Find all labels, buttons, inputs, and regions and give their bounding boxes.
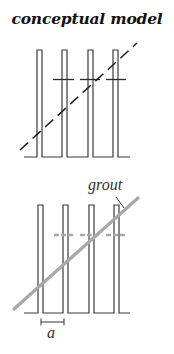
spacing-label-a: a — [47, 324, 55, 341]
top-diagram — [20, 43, 137, 157]
grout-label: grout — [88, 176, 123, 194]
grout-leader-line — [116, 197, 124, 208]
bottom-diagram: grout a — [14, 176, 138, 341]
top-comb-outline — [24, 50, 130, 157]
conceptual-model-diagrams: grout a — [0, 0, 174, 354]
